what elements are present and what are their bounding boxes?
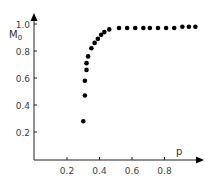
x-tick-label: 0.2 — [60, 166, 74, 176]
x-tick-label: 0.4 — [92, 166, 107, 176]
data-point — [172, 26, 177, 31]
x-tick-label: 0.6 — [125, 166, 140, 176]
data-point — [83, 78, 88, 83]
y-axis-label-subscript: 0 — [18, 34, 22, 42]
data-point — [81, 119, 86, 124]
x-axis-arrow-icon — [196, 157, 204, 164]
data-point — [133, 26, 138, 31]
y-tick-label: 0.4 — [16, 101, 31, 111]
data-point — [141, 26, 146, 31]
axis-labels: p M0 — [9, 29, 182, 157]
data-point — [92, 41, 97, 46]
data-points — [81, 24, 198, 123]
data-point — [117, 26, 122, 31]
data-point — [102, 30, 107, 35]
y-tick-label: 0.6 — [16, 74, 31, 84]
data-point — [107, 27, 112, 32]
data-point — [187, 24, 192, 29]
data-point — [96, 37, 101, 42]
data-point — [125, 26, 130, 31]
data-point — [86, 54, 91, 59]
data-point — [83, 93, 88, 98]
data-point — [84, 61, 89, 66]
data-point — [84, 68, 89, 73]
axes — [31, 13, 205, 164]
data-point — [164, 26, 169, 31]
y-tick-label: 0.2 — [16, 128, 30, 138]
y-axis-arrow-icon — [31, 13, 38, 21]
data-point — [148, 26, 153, 31]
data-point — [180, 24, 185, 29]
y-tick-label: 0.8 — [16, 47, 31, 57]
x-tick-label: 0.8 — [157, 166, 172, 176]
data-point — [156, 26, 161, 31]
data-point — [89, 46, 94, 51]
y-axis-label-main: M — [9, 29, 18, 40]
y-axis-label: M0 — [9, 29, 22, 42]
y-tick-label: 1.0 — [16, 20, 31, 30]
chart: 0.20.40.60.8 0.20.40.60.81.0 p M0 — [0, 0, 211, 185]
x-axis-label: p — [176, 146, 182, 157]
data-point — [193, 24, 198, 29]
